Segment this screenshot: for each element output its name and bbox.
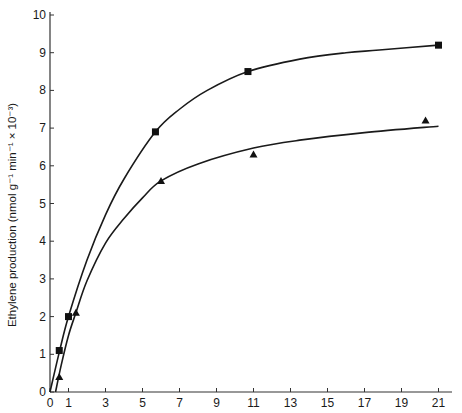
- x-tick-label: 5: [139, 396, 146, 410]
- y-tick-label: 8: [39, 83, 46, 97]
- y-tick-label: 6: [39, 159, 46, 173]
- x-tick-label: 1: [65, 396, 72, 410]
- y-tick-label: 10: [33, 8, 47, 22]
- triangle-marker: [72, 309, 80, 316]
- chart: 013579111315171921 012345678910 Ethylene…: [0, 0, 462, 413]
- square-marker: [244, 68, 251, 75]
- y-tick-label: 2: [39, 310, 46, 324]
- x-tick-label: 0: [47, 396, 54, 410]
- triangle-marker: [55, 373, 63, 380]
- x-tick-label: 15: [321, 396, 335, 410]
- square-marker: [65, 313, 72, 320]
- x-tick-label: 3: [102, 396, 109, 410]
- square-marker: [56, 347, 63, 354]
- y-tick-label: 1: [39, 347, 46, 361]
- y-tick-label: 5: [39, 197, 46, 211]
- fit-curves: [50, 45, 439, 392]
- y-tick-label: 7: [39, 121, 46, 135]
- square-marker: [435, 42, 442, 49]
- x-tick-label: 9: [213, 396, 220, 410]
- x-tick-label: 7: [176, 396, 183, 410]
- y-ticks: 012345678910: [33, 8, 54, 399]
- x-tick-label: 19: [395, 396, 409, 410]
- y-tick-label: 3: [39, 272, 46, 286]
- triangle-marker: [422, 117, 430, 124]
- y-tick-label: 4: [39, 234, 46, 248]
- y-tick-label: 0: [39, 385, 46, 399]
- y-tick-label: 9: [39, 46, 46, 60]
- x-tick-label: 11: [247, 396, 260, 410]
- triangle-marker: [250, 150, 258, 157]
- y-axis-label: Ethylene production (nmol g⁻¹ min⁻¹ × 10…: [6, 103, 18, 327]
- x-ticks: 013579111315171921: [47, 388, 446, 410]
- x-tick-label: 13: [284, 396, 298, 410]
- x-tick-label: 21: [432, 396, 446, 410]
- x-tick-label: 17: [358, 396, 372, 410]
- square-marker: [152, 128, 159, 135]
- squares-fit-curve: [50, 45, 439, 392]
- data-markers: [55, 42, 442, 380]
- triangles-fit-curve: [56, 126, 439, 392]
- triangle-marker: [157, 177, 165, 184]
